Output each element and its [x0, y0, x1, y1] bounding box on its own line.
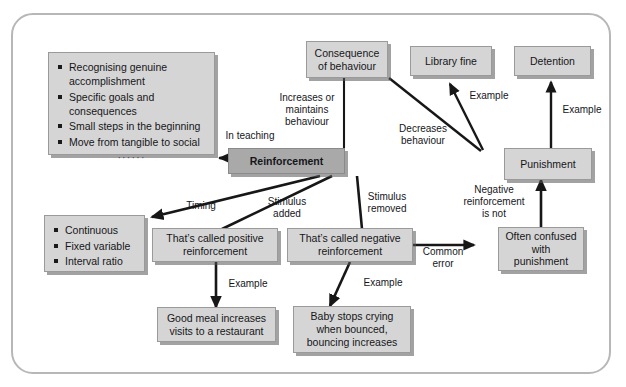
list-item: Specific goals and consequences [58, 90, 205, 118]
node-reinforcement: Reinforcement [228, 148, 345, 174]
node-detention: Detention [514, 46, 591, 76]
edge-label-example-library-fine: Example [463, 90, 515, 102]
list-item: Fixed variable [54, 239, 135, 253]
node-baby-bouncing-example: Baby stops crying when bounced, bouncing… [293, 306, 411, 353]
node-teaching-tips: Recognising genuine accomplishment Speci… [48, 52, 215, 155]
edge-label-example-positive: Example [222, 278, 274, 290]
list-ellipsis: ······ [58, 150, 205, 164]
node-positive-reinforcement: That’s called positive reinforcement [152, 228, 278, 262]
edge-label-common-error: Common error [412, 246, 474, 270]
edge-negative-to-baby [330, 262, 350, 306]
node-punishment: Punishment [504, 148, 592, 180]
edge-label-stimulus-added: Stimulus added [256, 196, 318, 220]
list-item: Move from tangible to social [58, 135, 205, 149]
teaching-tips-list: Recognising genuine accomplishment Speci… [58, 60, 205, 164]
edge-label-negative-reinforcement-is-not: Negative reinforcement is not [451, 184, 537, 220]
edge-label-increases-maintains: Increases or maintains behaviour [272, 92, 342, 128]
edge-label-in-teaching: In teaching [219, 130, 281, 142]
node-library-fine: Library fine [410, 46, 492, 76]
node-consequence-of-behaviour: Consequence of behaviour [306, 41, 388, 78]
schedules-list: Continuous Fixed variable Interval ratio [54, 223, 135, 268]
node-often-confused-with-punishment: Often confused with punishment [498, 227, 584, 271]
diagram-canvas: Recognising genuine accomplishment Speci… [0, 0, 626, 387]
list-item: Small steps in the beginning [58, 119, 205, 133]
node-reinforcement-schedules: Continuous Fixed variable Interval ratio [44, 215, 145, 272]
node-negative-reinforcement: That’s called negative reinforcement [287, 228, 413, 262]
node-good-meal-example: Good meal increases visits to a restaura… [157, 307, 276, 342]
edge-label-example-detention: Example [556, 104, 608, 116]
edge-label-example-negative: Example [357, 277, 409, 289]
list-item: Continuous [54, 223, 135, 237]
list-item: Interval ratio [54, 254, 135, 268]
edge-label-decreases-behaviour: Decreases behaviour [391, 123, 455, 147]
list-item: Recognising genuine accomplishment [58, 60, 205, 88]
edge-label-stimulus-removed: Stimulus removed [356, 191, 418, 215]
edge-label-timing: Timing [174, 200, 228, 212]
